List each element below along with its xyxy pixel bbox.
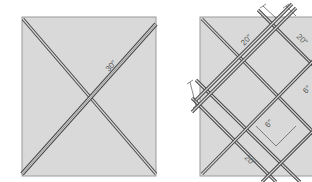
grid-panel: 20" 20" 6" 6" 20" bbox=[187, 4, 312, 182]
quilt-diagram: 30" 20" 2 bbox=[0, 0, 312, 182]
x-panel: 30" bbox=[22, 17, 156, 176]
